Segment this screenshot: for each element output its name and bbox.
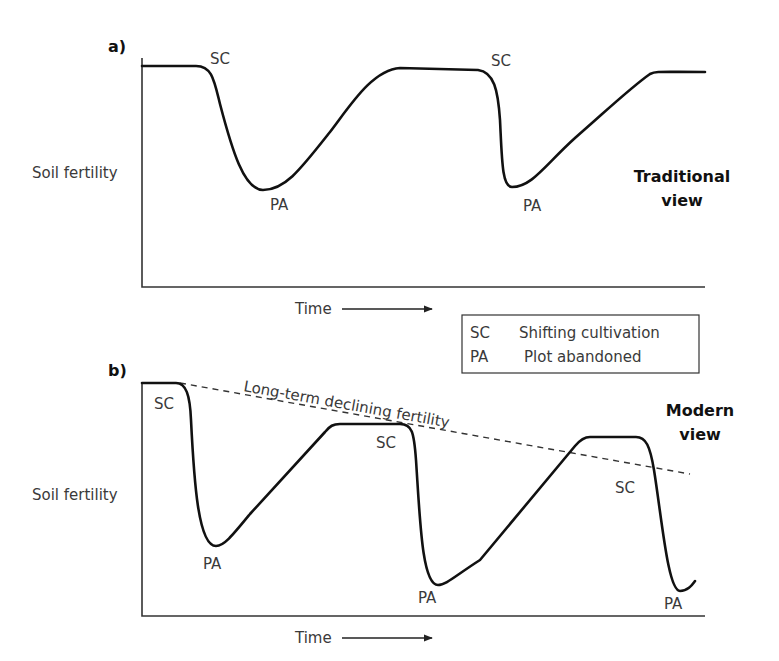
panel-b-view-title-line1: Modern bbox=[666, 401, 735, 420]
panel-a-label: a) bbox=[108, 37, 126, 56]
panel-b-view-title-line2: view bbox=[679, 425, 721, 444]
panel-b-sc-label-3: SC bbox=[615, 479, 635, 497]
panel-b-pa-label-2: PA bbox=[418, 589, 437, 607]
legend-abbr-sc: SC bbox=[470, 324, 490, 342]
panel-a-sc-label-2: SC bbox=[491, 52, 511, 70]
panel-a-x-axis-label: Time bbox=[294, 300, 332, 318]
panel-a-view-title-line2: view bbox=[661, 191, 703, 210]
panel-b-pa-label-1: PA bbox=[203, 555, 222, 573]
panel-a-y-axis-label: Soil fertility bbox=[32, 164, 118, 182]
panel-b: b) Long-term declining fertility SC PA S… bbox=[32, 361, 734, 647]
panel-a-pa-label-2: PA bbox=[523, 197, 542, 215]
panel-a: a) SC PA SC PA Soil fertility Time Tradi… bbox=[32, 37, 730, 318]
legend-abbr-pa: PA bbox=[470, 348, 489, 366]
panel-a-sc-label-1: SC bbox=[210, 50, 230, 68]
soil-fertility-diagram: a) SC PA SC PA Soil fertility Time Tradi… bbox=[0, 0, 779, 661]
panel-b-x-axis-label: Time bbox=[294, 629, 332, 647]
panel-a-view-title-line1: Traditional bbox=[634, 167, 731, 186]
panel-b-pa-label-3: PA bbox=[664, 595, 683, 613]
legend-text-sc: Shifting cultivation bbox=[519, 324, 660, 342]
panel-b-sc-label-2: SC bbox=[376, 434, 396, 452]
legend-text-pa: Plot abandoned bbox=[524, 348, 641, 366]
panel-a-pa-label-1: PA bbox=[270, 196, 289, 214]
panel-a-axes bbox=[142, 58, 705, 287]
legend-box: SC Shifting cultivation PA Plot abandone… bbox=[462, 315, 699, 373]
panel-b-sc-label-1: SC bbox=[154, 395, 174, 413]
panel-b-label: b) bbox=[108, 361, 127, 380]
panel-a-fertility-curve bbox=[142, 66, 705, 190]
panel-b-y-axis-label: Soil fertility bbox=[32, 486, 118, 504]
